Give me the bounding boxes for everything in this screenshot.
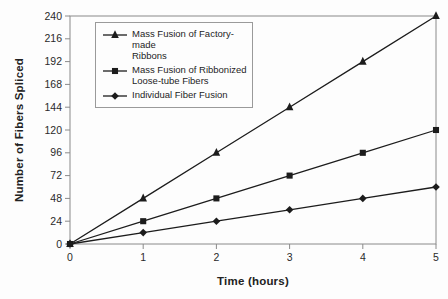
y-tick-label: 240 xyxy=(44,10,62,22)
legend-item-diamond: Individual Fiber Fusion xyxy=(102,89,248,102)
y-tick-label: 24 xyxy=(50,215,62,227)
series-line xyxy=(70,187,436,244)
square-marker xyxy=(360,150,366,156)
diamond-marker xyxy=(286,206,294,214)
y-tick-label: 96 xyxy=(50,146,62,158)
diamond-marker xyxy=(111,92,119,100)
x-tick-label: 0 xyxy=(67,251,73,263)
triangle-marker xyxy=(286,102,294,110)
x-tick-label: 3 xyxy=(287,251,293,263)
diamond-marker xyxy=(213,217,221,225)
y-tick-label: 216 xyxy=(44,32,62,44)
triangle-marker xyxy=(213,148,221,156)
series-line xyxy=(70,130,436,244)
diamond-marker xyxy=(359,195,367,203)
x-tick-label: 4 xyxy=(360,251,366,263)
y-tick-label: 144 xyxy=(44,101,62,113)
legend-label: Mass Fusion of Factory-madeRibbons xyxy=(132,28,248,61)
y-tick-label: 192 xyxy=(44,55,62,67)
y-tick-label: 120 xyxy=(44,124,62,136)
triangle-marker xyxy=(359,57,367,65)
legend-label: Mass Fusion of RibbonizedLoose-tube Fibe… xyxy=(132,64,247,86)
square-marker xyxy=(213,195,219,201)
legend-label: Individual Fiber Fusion xyxy=(132,89,228,100)
square-marker xyxy=(112,68,118,74)
square-marker xyxy=(140,218,146,224)
y-tick-label: 168 xyxy=(44,78,62,90)
x-axis-title: Time (hours) xyxy=(217,275,289,287)
square-marker xyxy=(287,173,293,179)
legend-item-square: Mass Fusion of RibbonizedLoose-tube Fibe… xyxy=(102,64,248,86)
triangle-marker xyxy=(111,30,119,38)
x-tick-label: 5 xyxy=(433,251,439,263)
triangle-marker xyxy=(139,194,147,202)
diamond-marker-icon xyxy=(102,90,128,102)
y-tick-label: 72 xyxy=(50,169,62,181)
x-tick-label: 1 xyxy=(140,251,146,263)
y-tick-label: 0 xyxy=(56,238,62,250)
square-marker-icon xyxy=(102,65,128,77)
triangle-marker xyxy=(432,11,440,19)
square-marker xyxy=(433,127,439,133)
diamond-marker xyxy=(432,183,440,191)
legend-item-triangle: Mass Fusion of Factory-madeRibbons xyxy=(102,28,248,61)
y-axis-title: Number of Fibers Spliced xyxy=(13,58,25,202)
y-tick-label: 48 xyxy=(50,192,62,204)
triangle-marker-icon xyxy=(102,29,128,41)
x-tick-label: 2 xyxy=(213,251,219,263)
line-chart-figure: 024487296120144168192216240012345 Number… xyxy=(0,0,448,299)
diamond-marker xyxy=(139,229,147,237)
legend: Mass Fusion of Factory-madeRibbonsMass F… xyxy=(95,22,253,108)
